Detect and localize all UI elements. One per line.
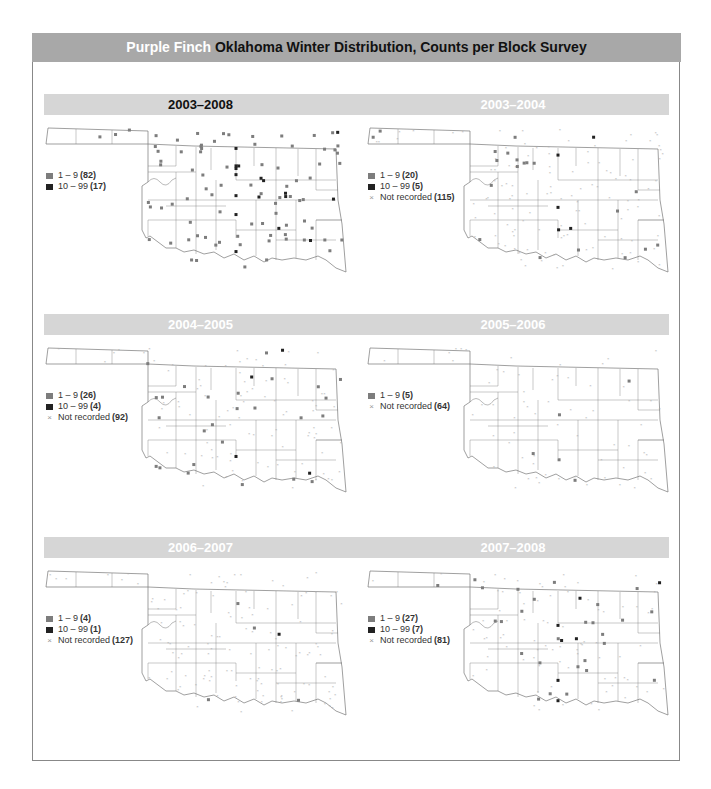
- svg-text:×: ×: [571, 193, 574, 198]
- low-count-marker-icon: [368, 173, 375, 179]
- legend-label: 1 – 9: [58, 170, 78, 181]
- svg-text:×: ×: [544, 472, 547, 477]
- svg-text:×: ×: [340, 601, 343, 606]
- svg-text:×: ×: [172, 362, 175, 367]
- svg-text:×: ×: [196, 704, 199, 709]
- svg-text:×: ×: [523, 617, 526, 622]
- svg-text:×: ×: [336, 589, 339, 594]
- svg-text:×: ×: [494, 572, 497, 577]
- oklahoma-map: [36, 120, 356, 300]
- svg-text:×: ×: [486, 635, 489, 640]
- map-panel-2003-2004: ××××××××××××××××××××××××××××××××××××××××…: [358, 120, 678, 310]
- svg-text:×: ×: [474, 234, 477, 239]
- low-count-marker-icon: [46, 393, 53, 399]
- svg-text:×: ×: [57, 346, 60, 351]
- svg-text:×: ×: [563, 572, 566, 577]
- svg-text:×: ×: [658, 213, 661, 218]
- legend-count: (27): [402, 613, 418, 624]
- svg-text:×: ×: [521, 455, 524, 460]
- high-count-marker-icon: [368, 627, 375, 633]
- svg-text:×: ×: [504, 243, 507, 248]
- svg-text:×: ×: [440, 571, 443, 576]
- svg-text:×: ×: [490, 167, 493, 172]
- svg-text:×: ×: [226, 408, 229, 413]
- svg-text:×: ×: [398, 129, 401, 134]
- svg-text:×: ×: [639, 643, 642, 648]
- svg-text:×: ×: [204, 363, 207, 368]
- panel-title-2003-2008: 2003–2008: [44, 94, 357, 115]
- svg-text:×: ×: [502, 369, 505, 374]
- svg-text:×: ×: [203, 673, 206, 678]
- svg-text:×: ×: [520, 257, 523, 262]
- svg-text:×: ×: [562, 624, 565, 629]
- svg-text:×: ×: [662, 151, 665, 156]
- svg-text:×: ×: [613, 442, 616, 447]
- svg-text:×: ×: [338, 469, 341, 474]
- svg-text:×: ×: [604, 676, 607, 681]
- svg-text:×: ×: [632, 157, 635, 162]
- svg-text:×: ×: [308, 650, 311, 655]
- svg-text:×: ×: [160, 620, 163, 625]
- svg-text:×: ×: [629, 250, 632, 255]
- svg-text:×: ×: [527, 153, 530, 158]
- svg-text:×: ×: [332, 367, 335, 372]
- svg-text:×: ×: [118, 347, 121, 352]
- svg-text:×: ×: [331, 477, 334, 482]
- svg-text:×: ×: [605, 689, 608, 694]
- svg-text:×: ×: [586, 482, 589, 487]
- map-legend: 1 – 9(26)10 – 99(4)×Not recorded(92): [46, 390, 128, 423]
- svg-text:×: ×: [265, 378, 268, 383]
- svg-text:×: ×: [240, 709, 243, 714]
- legend-count: (81): [434, 635, 450, 646]
- svg-text:×: ×: [527, 476, 530, 481]
- not-recorded-marker-icon: ×: [368, 192, 375, 203]
- map-panel-2006-2007: ××××××××××××××××××××××××××××××××××××××××…: [36, 563, 356, 753]
- svg-text:×: ×: [635, 573, 638, 578]
- svg-text:×: ×: [303, 681, 306, 686]
- svg-text:×: ×: [266, 606, 269, 611]
- svg-text:×: ×: [620, 216, 623, 221]
- svg-text:×: ×: [275, 427, 278, 432]
- svg-text:×: ×: [258, 665, 261, 670]
- svg-text:×: ×: [518, 372, 521, 377]
- map-panel-2007-2008: ××××××××××××××××××××××××××××××××××××××××…: [358, 563, 678, 753]
- legend-count: (5): [402, 390, 413, 401]
- svg-text:×: ×: [299, 650, 302, 655]
- svg-text:×: ×: [493, 211, 496, 216]
- svg-text:×: ×: [610, 170, 613, 175]
- svg-text:×: ×: [602, 361, 605, 366]
- map-legend: 1 – 9(27)10 – 99(7)×Not recorded(81): [368, 613, 450, 646]
- svg-text:×: ×: [499, 608, 502, 613]
- svg-text:×: ×: [179, 684, 182, 689]
- svg-text:×: ×: [550, 190, 553, 195]
- low-count-marker-icon: [46, 173, 53, 179]
- svg-text:×: ×: [462, 129, 465, 134]
- svg-text:×: ×: [502, 632, 505, 637]
- svg-text:×: ×: [606, 168, 609, 173]
- legend-count: (26): [80, 390, 96, 401]
- svg-text:×: ×: [277, 643, 280, 648]
- not-recorded-marker-icon: ×: [46, 635, 53, 646]
- svg-text:×: ×: [637, 259, 640, 264]
- svg-text:×: ×: [646, 452, 649, 457]
- svg-text:×: ×: [576, 433, 579, 438]
- svg-text:×: ×: [547, 399, 550, 404]
- svg-text:×: ×: [143, 350, 146, 355]
- legend-count: (64): [434, 401, 450, 412]
- low-count-marker-icon: [368, 616, 375, 622]
- svg-text:×: ×: [607, 356, 610, 361]
- svg-text:×: ×: [526, 191, 529, 196]
- figure-header: Purple Finch Oklahoma Winter Distributio…: [32, 33, 681, 62]
- svg-text:×: ×: [659, 156, 662, 161]
- svg-text:×: ×: [546, 620, 549, 625]
- svg-text:×: ×: [622, 604, 625, 609]
- not-recorded-marker-icon: ×: [368, 401, 375, 412]
- svg-text:×: ×: [240, 393, 243, 398]
- svg-text:×: ×: [189, 572, 192, 577]
- svg-text:×: ×: [522, 218, 525, 223]
- legend-count: (82): [80, 170, 96, 181]
- panel-title-2003-2004: 2003–2004: [357, 94, 669, 115]
- svg-text:×: ×: [172, 650, 175, 655]
- svg-text:×: ×: [291, 485, 294, 490]
- svg-text:×: ×: [229, 422, 232, 427]
